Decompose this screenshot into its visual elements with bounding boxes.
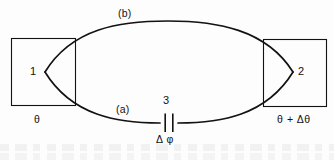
node-label-2: 2	[298, 66, 304, 77]
figure-canvas: 1 2 3 (b) (a) θ θ + Δθ Δ φ	[0, 0, 334, 160]
phase-label-right: θ + Δθ	[277, 114, 311, 125]
node-label-3: 3	[163, 95, 169, 106]
upper-branch-curve	[45, 21, 293, 72]
phase-label-junction: Δ φ	[156, 134, 174, 145]
scan-artifact	[0, 153, 334, 160]
capacitor-symbol	[165, 114, 173, 133]
lower-branch-curve-right	[178, 72, 293, 123]
branch-label-b: (b)	[118, 8, 131, 19]
scan-artifact	[0, 144, 334, 151]
lower-branch-curve-left	[45, 72, 160, 123]
node-label-1: 1	[30, 66, 36, 77]
phase-label-left: θ	[34, 114, 40, 125]
branch-label-a: (a)	[116, 104, 129, 115]
